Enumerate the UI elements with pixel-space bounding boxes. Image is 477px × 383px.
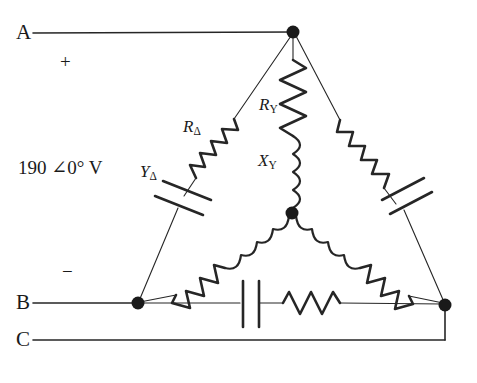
delta-right-capacitor <box>382 178 432 214</box>
wye-left-inductor <box>225 216 289 269</box>
label-y-delta-sub: Δ <box>149 170 156 183</box>
wye-top-inductor <box>293 136 300 208</box>
circuit-schematic-svg <box>0 0 477 383</box>
circuit-diagram: A B C + − 190 ∠0° V RΔ RY XY YΔ <box>0 0 477 383</box>
label-r-wye: RY <box>259 96 278 115</box>
lead-line-a <box>33 32 293 33</box>
label-r-wye-base: R <box>259 95 269 114</box>
label-x-wye-sub: Y <box>268 159 276 172</box>
terminal-label-a: A <box>16 22 31 43</box>
node-center-neutral <box>286 207 299 220</box>
wye-right-wire <box>409 296 443 303</box>
label-y-delta: YΔ <box>140 163 157 182</box>
label-x-wye: XY <box>258 152 277 171</box>
node-top-vertex <box>287 26 300 39</box>
label-r-wye-sub: Y <box>269 103 277 116</box>
node-bottom-right-vertex <box>439 299 452 312</box>
delta-right-resistor <box>337 120 389 188</box>
delta-bottom-capacitor <box>243 281 259 327</box>
delta-right-wire-lower <box>404 210 444 302</box>
wye-right-resistor <box>360 265 413 309</box>
terminal-label-c: C <box>16 329 30 350</box>
delta-right-wire-upper <box>296 36 340 120</box>
delta-bottom-resistor <box>283 292 340 314</box>
source-voltage-label: 190 ∠0° V <box>18 158 102 177</box>
polarity-plus-sign: + <box>60 52 71 71</box>
node-bottom-left-vertex <box>132 297 145 310</box>
label-r-delta-base: R <box>183 117 193 136</box>
wye-left-resistor <box>172 265 225 308</box>
wye-top-resistor <box>280 60 306 136</box>
delta-bottom-wire-right <box>340 303 443 304</box>
wye-left-wire <box>140 295 176 302</box>
label-r-delta: RΔ <box>183 118 201 137</box>
delta-left-wire-lower <box>139 208 178 301</box>
label-r-delta-sub: Δ <box>193 125 200 138</box>
wye-right-inductor <box>296 216 360 269</box>
delta-left-capacitor <box>155 181 211 215</box>
label-x-wye-base: X <box>258 151 268 170</box>
terminal-label-b: B <box>16 292 30 313</box>
polarity-minus-sign: − <box>62 262 73 281</box>
